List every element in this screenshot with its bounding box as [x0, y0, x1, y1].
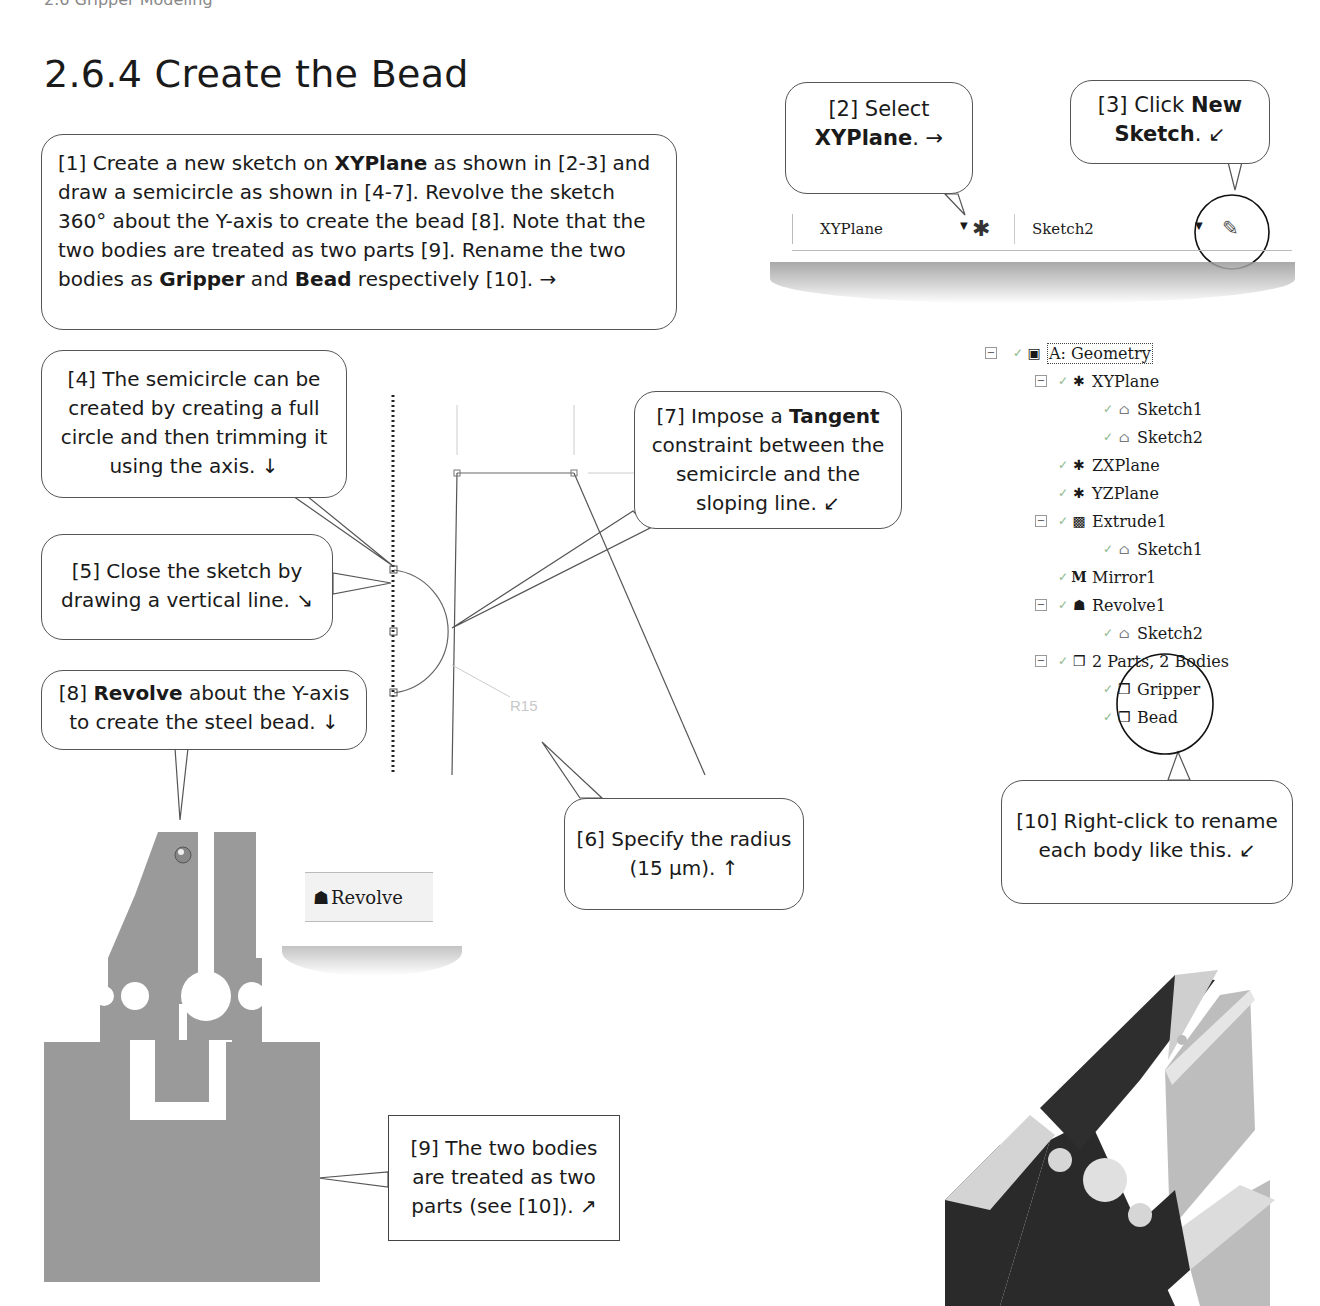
sketch-dropdown[interactable]: Sketch2 ▼: [1032, 220, 1202, 238]
collapse-icon[interactable]: −: [1035, 375, 1047, 387]
radius-dimension[interactable]: R15: [510, 697, 538, 714]
check-icon: ✓: [1058, 458, 1068, 472]
callout-4-semicircle: [4] The semicircle can be created by cre…: [41, 350, 347, 498]
section-title: 2.6.4 Create the Bead: [44, 52, 469, 96]
tree-item-parts[interactable]: − ✓ ❒ 2 Parts, 2 Bodies: [985, 650, 1229, 672]
callout-7-pointer: [452, 511, 650, 628]
sketch-icon: ⌂: [1115, 429, 1133, 445]
tree-item-mirror1[interactable]: ✓ M Mirror1: [985, 566, 1156, 588]
sketch-dropdown-value: Sketch2: [1032, 220, 1094, 238]
revolve-button[interactable]: ☗ Revolve: [305, 872, 433, 922]
toolbar-shadow: [770, 262, 1295, 304]
check-icon: ✓: [1103, 402, 1113, 416]
tree-item-sketch2-revolve[interactable]: ✓ ⌂ Sketch2: [985, 622, 1203, 644]
body-icon: ❒: [1115, 709, 1133, 725]
callout-7-tangent: [7] Impose a Tangent constraint between …: [634, 391, 902, 529]
revolve-button-shadow: [282, 946, 462, 976]
tree-item-zxplane[interactable]: ✓ ✱ ZXPlane: [985, 454, 1160, 476]
callout-5-pointer: [333, 573, 391, 594]
sketch-icon: ⌂: [1115, 401, 1133, 417]
check-icon: ✓: [1103, 430, 1113, 444]
plane-icon: ✱: [1070, 457, 1088, 473]
check-icon: ✓: [1013, 346, 1023, 360]
gripper-3d-model: [945, 970, 1275, 1306]
running-head: 2.6 Gripper Modeling: [44, 0, 213, 9]
callout-5-close-sketch: [5] Close the sketch by drawing a vertic…: [41, 534, 333, 640]
geometry-icon: ▣: [1025, 345, 1043, 361]
tree-item-revolve1[interactable]: − ✓ ☗ Revolve1: [985, 594, 1166, 616]
check-icon: ✓: [1058, 374, 1068, 388]
callout-9-pointer: [318, 1172, 388, 1187]
plane-dropdown[interactable]: XYPlane ▼: [820, 220, 970, 238]
tree-item-bead[interactable]: ✓ ❒ Bead: [985, 706, 1178, 728]
callout-10-pointer: [1168, 752, 1190, 780]
check-icon: ✓: [1103, 682, 1113, 696]
tree-item-sketch1-extrude[interactable]: ✓ ⌂ Sketch1: [985, 538, 1203, 560]
collapse-icon[interactable]: −: [1035, 599, 1047, 611]
revolve-icon: ☗: [313, 887, 329, 908]
check-icon: ✓: [1103, 626, 1113, 640]
check-icon: ✓: [1103, 542, 1113, 556]
bead-sphere: [175, 847, 191, 863]
callout-6-pointer: [542, 742, 602, 798]
tree-item-sketch2[interactable]: ✓ ⌂ Sketch2: [985, 426, 1203, 448]
tree-item-extrude1[interactable]: − ✓ ▩ Extrude1: [985, 510, 1167, 532]
check-icon: ✓: [1058, 654, 1068, 668]
extrude-icon: ▩: [1070, 513, 1088, 529]
body-icon: ❒: [1115, 681, 1133, 697]
check-icon: ✓: [1058, 570, 1068, 584]
callout-9-two-parts: [9] The two bodies are treated as two pa…: [388, 1115, 620, 1241]
tree-item-gripper[interactable]: ✓ ❒ Gripper: [985, 678, 1200, 700]
collapse-icon[interactable]: −: [1035, 655, 1047, 667]
new-sketch-icon[interactable]: ✎: [1222, 216, 1239, 240]
callout-3-pointer: [1228, 162, 1242, 190]
collapse-icon[interactable]: −: [985, 347, 997, 359]
callout-1-instructions: [1] Create a new sketch on XYPlane as sh…: [41, 134, 677, 330]
sketch-icon: ⌂: [1115, 625, 1133, 641]
parts-icon: ❒: [1070, 653, 1088, 669]
tree-item-geometry[interactable]: − ✓ ▣ A: Geometry: [985, 342, 1153, 364]
plane-dropdown-value: XYPlane: [820, 220, 883, 238]
new-plane-icon[interactable]: ✱: [972, 216, 990, 241]
mirror-icon: M: [1070, 569, 1088, 585]
check-icon: ✓: [1058, 598, 1068, 612]
callout-3-new-sketch: [3] Click New Sketch. ↙: [1070, 80, 1270, 164]
callout-10-rename: [10] Right-click to rename each body lik…: [1001, 780, 1293, 904]
chevron-down-icon: ▼: [960, 220, 968, 231]
check-icon: ✓: [1058, 486, 1068, 500]
check-icon: ✓: [1103, 710, 1113, 724]
tree-item-yzplane[interactable]: ✓ ✱ YZPlane: [985, 482, 1159, 504]
plane-icon: ✱: [1070, 373, 1088, 389]
collapse-icon[interactable]: −: [1035, 515, 1047, 527]
sketch-icon: ⌂: [1115, 541, 1133, 557]
callout-6-radius: [6] Specify the radius (15 μm). ↑: [564, 798, 804, 910]
gripper-2d-shape: [44, 832, 320, 1282]
revolve-icon: ☗: [1070, 597, 1088, 613]
semicircle: [394, 570, 448, 693]
plane-icon: ✱: [1070, 485, 1088, 501]
check-icon: ✓: [1058, 514, 1068, 528]
callout-2-select-plane: [2] Select XYPlane. →: [785, 82, 973, 194]
tree-item-xyplane[interactable]: − ✓ ✱ XYPlane: [985, 370, 1159, 392]
callout-8-revolve: [8] Revolve about the Y-axis to create t…: [41, 670, 367, 750]
chevron-down-icon: ▼: [1195, 220, 1203, 231]
sketching-toolbar: XYPlane ▼ ✱ Sketch2 ▼ ✎: [792, 210, 1292, 251]
callout-8-pointer: [175, 748, 188, 820]
tree-item-sketch1[interactable]: ✓ ⌂ Sketch1: [985, 398, 1203, 420]
